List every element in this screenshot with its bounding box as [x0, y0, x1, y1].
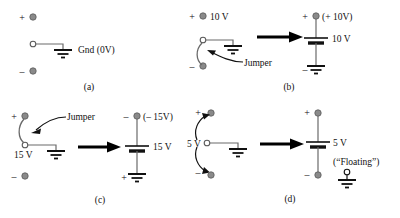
panel-a-plus-sign: + — [19, 12, 25, 23]
panel-b-plus-sign: + — [189, 11, 195, 22]
panel-b-battery-label: 10 V — [332, 34, 351, 44]
panel-c-plus-terminal[interactable] — [22, 113, 28, 119]
panel-d-floating-label: (“Floating”) — [333, 157, 379, 168]
panel-c-supply-label: 15 V — [14, 150, 33, 160]
panel-d-eq-top-sign: + — [304, 107, 310, 118]
panel-d-eq-top-terminal[interactable] — [315, 110, 321, 116]
panel-d-minus-terminal[interactable] — [208, 172, 214, 178]
panel-c-eq-top-sign: – — [123, 111, 130, 122]
panel-c-jumper-label: Jumper — [67, 112, 96, 122]
panel-c-jumper-wire — [19, 119, 24, 143]
panel-c-eq-top-label: (– 15V) — [143, 112, 173, 123]
panel-b-jumper-wire — [197, 43, 202, 65]
panel-c-caption: (c) — [95, 195, 106, 206]
panel-a-minus-terminal[interactable] — [30, 68, 36, 74]
panel-b-eq-top-terminal[interactable] — [313, 13, 319, 19]
panel-c-eq-ground-icon — [128, 174, 146, 182]
panel-c-transform-arrow — [78, 142, 121, 153]
panel-b-caption: (b) — [283, 82, 294, 93]
panel-c-eq-top-terminal[interactable] — [134, 113, 140, 119]
panel-b-ground-icon — [224, 46, 242, 54]
panel-d: + 5 V – + — [185, 100, 400, 218]
panel-a-common-terminal[interactable] — [30, 41, 36, 47]
panel-d-minus-sign: – — [195, 167, 202, 178]
panel-d-arc-to-plus — [196, 116, 205, 140]
panel-d-eq-bottom-terminal[interactable] — [315, 172, 321, 178]
panel-c-ground-icon — [47, 151, 65, 159]
panel-b-eq-top-sign: + — [302, 11, 308, 22]
panel-d-battery-label: 5 V — [333, 138, 347, 148]
panel-d-supply-label: 5 V — [187, 139, 201, 149]
panel-c-minus-sign: – — [11, 171, 18, 182]
panel-c: + 15 V Jumper – — [0, 100, 200, 218]
panel-b-common-terminal[interactable] — [200, 37, 206, 43]
panel-c-battery-icon — [125, 146, 149, 151]
panel-a-ground-label: Gnd (0V) — [78, 45, 115, 56]
panel-b: + 10 V – Jumper + — [185, 0, 400, 100]
panel-b-transform-arrow — [257, 32, 303, 43]
panel-a-caption: (a) — [84, 82, 95, 93]
panel-b-jumper-label: Jumper — [244, 58, 273, 68]
panel-c-eq-bottom-sign: + — [121, 172, 127, 183]
panel-d-plus-sign: + — [195, 107, 201, 118]
panel-d-floating-ground-icon — [338, 169, 356, 187]
panel-c-plus-sign: + — [11, 111, 17, 122]
panel-a-ground-icon — [54, 50, 72, 58]
panel-b-supply-label: 10 V — [210, 12, 229, 22]
panel-b-battery-icon — [304, 38, 328, 43]
panel-c-jumper-callout-line — [36, 117, 66, 130]
panel-c-battery-label: 15 V — [153, 142, 172, 152]
panel-d-eq-bottom-sign: – — [304, 169, 311, 180]
panel-a-minus-sign: – — [19, 66, 26, 77]
panel-a-plus-terminal[interactable] — [30, 14, 36, 20]
panel-a: + Gnd (0V) – (a) — [0, 0, 200, 100]
panel-d-caption: (d) — [284, 194, 295, 205]
panel-b-minus-sign: – — [189, 61, 196, 72]
panel-d-transform-arrow — [260, 139, 304, 150]
panel-c-minus-terminal[interactable] — [22, 173, 28, 179]
panel-b-jumper-arrowhead — [207, 50, 216, 56]
panel-d-battery-icon — [306, 142, 330, 147]
panel-c-common-terminal[interactable] — [22, 142, 28, 148]
panel-b-jumper-callout-line — [211, 52, 243, 62]
panel-d-common-terminal[interactable] — [204, 140, 210, 146]
figure-root: + Gnd (0V) – (a) + 10 V — [0, 0, 400, 218]
panel-b-eq-top-label: (+ 10V) — [322, 12, 352, 23]
panel-b-plus-terminal[interactable] — [200, 13, 206, 19]
panel-d-ground-icon — [229, 149, 247, 157]
panel-b-eq-ground-icon — [307, 66, 325, 74]
